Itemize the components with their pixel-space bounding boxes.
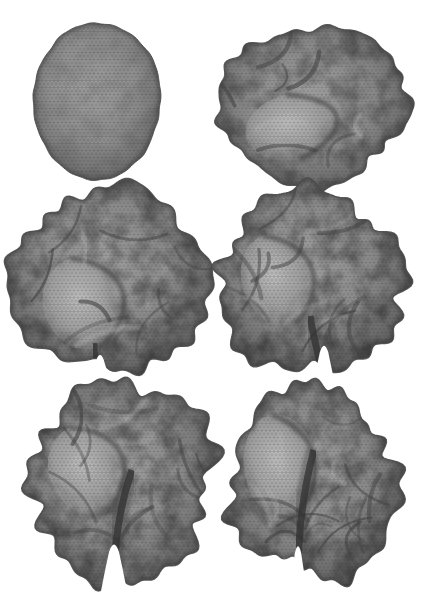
panel-stage-3-folding [4,178,216,384]
figure-root [0,0,427,604]
mesh-evolution-figure [0,0,427,604]
triangle-mesh-overlay [4,179,216,383]
panel-stage-4-folding [212,178,413,387]
triangle-mesh-overlay [25,15,169,187]
panel-stage-1-sphere [25,15,169,187]
panel-stage-5-hemispheres [21,374,228,591]
triangle-mesh-overlay [208,20,418,190]
panel-stage-2-early-folding [198,20,418,194]
panel-stage-6-brain [222,376,406,591]
